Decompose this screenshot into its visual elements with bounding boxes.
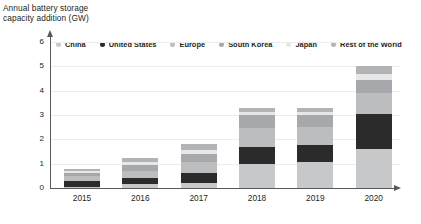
gridline bbox=[50, 115, 400, 116]
bar-segment-south-korea[interactable] bbox=[181, 154, 217, 163]
chart-title-line-1: Annual battery storage bbox=[3, 3, 203, 13]
bar-segment-japan[interactable] bbox=[64, 171, 100, 173]
bar-segment-china[interactable] bbox=[239, 164, 275, 188]
chart-title: Annual battery storage capacity addition… bbox=[3, 3, 203, 24]
x-tick-label-2016: 2016 bbox=[110, 193, 170, 203]
bar-segment-europe[interactable] bbox=[64, 176, 100, 181]
y-tick-label: 0 bbox=[18, 183, 44, 192]
bar-2015[interactable] bbox=[64, 169, 100, 188]
chart-container: Annual battery storage capacity addition… bbox=[0, 0, 421, 224]
bar-segment-rest-of-the-world[interactable] bbox=[181, 144, 217, 149]
bar-segment-united-states[interactable] bbox=[122, 178, 158, 184]
bar-2016[interactable] bbox=[122, 158, 158, 188]
bar-segment-europe[interactable] bbox=[239, 128, 275, 146]
bar-segment-rest-of-the-world[interactable] bbox=[239, 108, 275, 112]
bar-segment-china[interactable] bbox=[297, 162, 333, 188]
bar-2020[interactable] bbox=[356, 66, 392, 188]
bar-segment-europe[interactable] bbox=[297, 127, 333, 145]
y-axis-line bbox=[50, 36, 51, 188]
gridline bbox=[50, 42, 400, 43]
y-tick-label: 6 bbox=[18, 37, 44, 46]
x-tick-label-2017: 2017 bbox=[169, 193, 229, 203]
bar-segment-rest-of-the-world[interactable] bbox=[64, 169, 100, 172]
bar-segment-united-states[interactable] bbox=[181, 173, 217, 183]
bar-segment-rest-of-the-world[interactable] bbox=[122, 158, 158, 162]
bar-segment-south-korea[interactable] bbox=[239, 115, 275, 128]
bar-segment-south-korea[interactable] bbox=[64, 173, 100, 175]
bar-segment-rest-of-the-world[interactable] bbox=[356, 66, 392, 73]
plot-area bbox=[50, 42, 400, 188]
x-tick-label-2015: 2015 bbox=[52, 193, 112, 203]
bar-segment-japan[interactable] bbox=[122, 162, 158, 165]
y-axis-arrow-icon bbox=[47, 30, 53, 37]
bar-segment-europe[interactable] bbox=[356, 93, 392, 114]
y-tick-label: 2 bbox=[18, 134, 44, 143]
bar-segment-europe[interactable] bbox=[181, 162, 217, 173]
bar-2019[interactable] bbox=[297, 108, 333, 188]
bar-segment-japan[interactable] bbox=[297, 112, 333, 115]
x-tick-label-2019: 2019 bbox=[285, 193, 345, 203]
gridline bbox=[50, 164, 400, 165]
bar-segment-china[interactable] bbox=[356, 149, 392, 188]
bar-segment-south-korea[interactable] bbox=[122, 165, 158, 171]
bar-segment-europe[interactable] bbox=[122, 171, 158, 178]
bar-segment-japan[interactable] bbox=[181, 150, 217, 154]
bar-segment-united-states[interactable] bbox=[297, 145, 333, 162]
gridline bbox=[50, 66, 400, 67]
bar-segment-united-states[interactable] bbox=[356, 114, 392, 149]
bar-segment-rest-of-the-world[interactable] bbox=[297, 108, 333, 112]
y-tick-label: 1 bbox=[18, 159, 44, 168]
bar-segment-united-states[interactable] bbox=[64, 181, 100, 187]
y-tick-label: 3 bbox=[18, 110, 44, 119]
x-tick-label-2018: 2018 bbox=[227, 193, 287, 203]
bar-segment-south-korea[interactable] bbox=[297, 115, 333, 127]
y-tick-label: 5 bbox=[18, 61, 44, 70]
x-axis-arrow-icon bbox=[394, 185, 401, 191]
bar-segment-united-states[interactable] bbox=[239, 147, 275, 164]
bar-segment-japan[interactable] bbox=[239, 112, 275, 115]
gridline bbox=[50, 91, 400, 92]
chart-title-line-2: capacity addition (GW) bbox=[3, 13, 203, 23]
bar-segment-south-korea[interactable] bbox=[356, 80, 392, 93]
x-axis-line bbox=[50, 188, 396, 189]
bar-2017[interactable] bbox=[181, 144, 217, 188]
bar-segment-japan[interactable] bbox=[356, 74, 392, 80]
bar-2018[interactable] bbox=[239, 108, 275, 188]
gridline bbox=[50, 139, 400, 140]
y-tick-label: 4 bbox=[18, 86, 44, 95]
x-tick-label-2020: 2020 bbox=[344, 193, 404, 203]
